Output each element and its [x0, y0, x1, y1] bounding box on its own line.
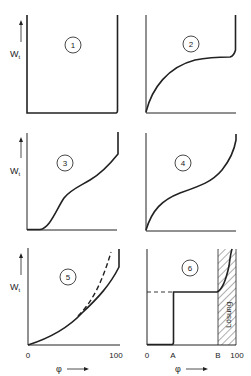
panel-1: 1 Wt [10, 15, 118, 113]
panel-2: 2 [146, 15, 236, 113]
y-axis-label: Wt [10, 49, 21, 60]
y-axis-arrow-icon [19, 20, 23, 25]
x-axis-label: φ [56, 364, 62, 374]
x-axis-arrow-icon [203, 367, 208, 371]
x-tick-0: 0 [145, 351, 150, 360]
panel-4-curve [146, 134, 236, 230]
x-tick-100: 100 [109, 351, 123, 360]
panel-3-number: 3 [63, 159, 68, 168]
x-tick-b: B [215, 351, 220, 360]
x-tick-100: 100 [230, 351, 244, 360]
y-axis-label: Wt [10, 282, 21, 293]
panel-4: 4 [146, 133, 236, 231]
hatched-region-loesung [218, 249, 236, 345]
x-axis-label: φ [175, 364, 181, 374]
x-tick-0: 0 [26, 351, 31, 360]
panel-6-number: 6 [188, 264, 193, 273]
panel-5-dashed-curve [78, 252, 111, 316]
y-axis-arrow-icon [19, 253, 23, 258]
y-axis-arrow-icon [19, 137, 23, 142]
panel-2-number: 2 [189, 40, 194, 49]
panel-1-curve [27, 15, 118, 113]
panel-4-number: 4 [181, 159, 186, 168]
panel-3-curve [27, 132, 118, 230]
x-tick-a: A [170, 351, 176, 360]
panel-5: 5 Wt 0 100 φ [10, 248, 123, 374]
panel-6: 6 Lösung 0 A B 100 φ [145, 249, 244, 374]
panel-5-solid-curve [28, 249, 119, 345]
panel-5-number: 5 [66, 273, 71, 282]
y-axis-label: Wt [10, 166, 21, 177]
hatched-region-label: Lösung [224, 302, 233, 328]
panel-2-curve [146, 15, 236, 112]
figure-canvas: 1 Wt 2 3 Wt 4 5 W [0, 0, 251, 376]
x-axis-arrow-icon [84, 367, 89, 371]
panel-3: 3 Wt [10, 132, 118, 230]
panel-1-number: 1 [71, 41, 76, 50]
